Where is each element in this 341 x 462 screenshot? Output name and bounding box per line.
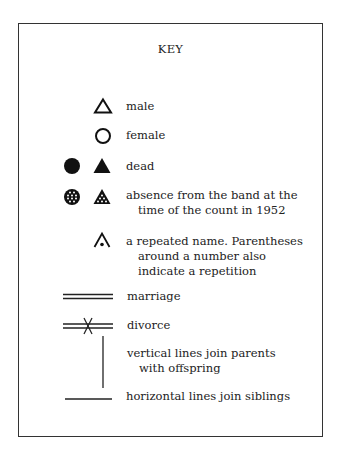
- label-female: female: [126, 128, 165, 143]
- absent-triangle-icon: [93, 188, 111, 205]
- repeated-name-icon: [93, 232, 111, 249]
- label-marriage: marriage: [127, 289, 180, 304]
- label-repeated-line-1: a repeated name. Parentheses: [126, 234, 303, 248]
- female-circle-icon: [94, 127, 112, 145]
- horizontal-line-icon: [65, 397, 112, 401]
- key-title: KEY: [0, 42, 341, 56]
- label-horizontal-lines: horizontal lines join siblings: [126, 389, 290, 404]
- label-repeated-name: a repeated name. Parentheses around a nu…: [126, 234, 303, 279]
- label-absence-line-2: time of the count in 1952: [126, 203, 298, 218]
- label-absence: absence from the band at the time of the…: [126, 188, 298, 218]
- label-vertical-lines: vertical lines join parents with offspri…: [127, 346, 276, 376]
- male-triangle-icon: [94, 98, 112, 114]
- label-vertical-line-2: with offspring: [127, 361, 276, 376]
- label-divorce: divorce: [127, 318, 170, 333]
- label-repeated-line-3: indicate a repetition: [126, 264, 303, 279]
- marriage-line-icon: [63, 293, 113, 301]
- divorce-line-icon: [63, 318, 113, 334]
- label-absence-line-1: absence from the band at the: [126, 188, 298, 202]
- label-vertical-line-1: vertical lines join parents: [127, 346, 276, 360]
- label-male: male: [126, 99, 154, 114]
- absent-circle-icon: [63, 188, 81, 206]
- dead-circle-icon: [63, 157, 81, 175]
- vertical-line-icon: [101, 336, 105, 388]
- dead-triangle-icon: [93, 157, 111, 174]
- label-repeated-line-2: around a number also: [126, 249, 303, 264]
- label-dead: dead: [126, 159, 154, 174]
